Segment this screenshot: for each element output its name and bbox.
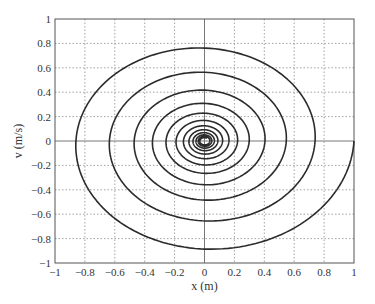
y-tick-labels: −1−0.8−0.6−0.4−0.200.20.40.60.81 — [31, 13, 51, 269]
phase-trajectory-curve — [76, 48, 354, 249]
x-tick-labels: −1−0.8−0.6−0.4−0.200.20.40.60.81 — [49, 266, 357, 278]
x-axis-label: x (m) — [191, 279, 217, 293]
svg-text:1: 1 — [46, 13, 52, 25]
svg-text:−1: −1 — [39, 257, 51, 269]
svg-text:−0.6: −0.6 — [31, 208, 51, 220]
svg-text:0.8: 0.8 — [317, 266, 331, 278]
svg-text:−0.4: −0.4 — [31, 184, 51, 196]
svg-text:−0.6: −0.6 — [105, 266, 125, 278]
svg-text:0.6: 0.6 — [287, 266, 301, 278]
svg-text:−0.8: −0.8 — [75, 266, 95, 278]
phase-portrait-chart: −1−0.8−0.6−0.4−0.200.20.40.60.81 −1−0.8−… — [0, 0, 375, 304]
svg-text:−0.8: −0.8 — [31, 233, 51, 245]
svg-text:1: 1 — [351, 266, 357, 278]
svg-text:0.4: 0.4 — [257, 266, 271, 278]
svg-text:0.4: 0.4 — [37, 86, 51, 98]
svg-text:0.2: 0.2 — [228, 266, 242, 278]
y-axis-label: v (m/s) — [11, 124, 25, 158]
zero-axes — [55, 19, 354, 263]
svg-text:0: 0 — [46, 135, 52, 147]
svg-text:0.8: 0.8 — [37, 37, 51, 49]
svg-text:−0.2: −0.2 — [31, 159, 51, 171]
svg-text:0: 0 — [202, 266, 208, 278]
svg-text:−0.2: −0.2 — [165, 266, 185, 278]
svg-text:−0.4: −0.4 — [135, 266, 155, 278]
svg-text:0.6: 0.6 — [37, 62, 51, 74]
svg-text:0.2: 0.2 — [37, 111, 51, 123]
